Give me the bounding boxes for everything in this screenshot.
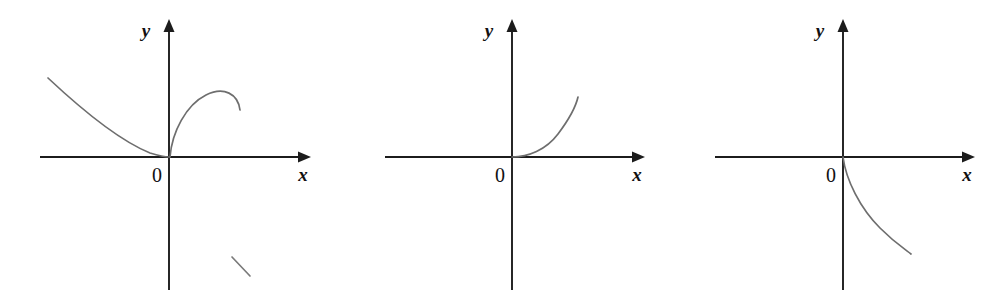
origin-label: 0 — [495, 164, 505, 186]
math-figure-root: y x 0 y x 0 — [0, 0, 1000, 295]
curve-falling-branch — [843, 157, 911, 254]
x-axis-label: x — [961, 164, 972, 185]
axes-panel-right: y x 0 — [670, 0, 1000, 295]
y-axis-arrowhead-icon — [507, 19, 518, 32]
axes-diagram-left: y x 0 — [0, 0, 340, 295]
x-axis-arrowhead-icon — [298, 152, 311, 163]
x-axis-arrowhead-icon — [962, 152, 975, 163]
origin-label: 0 — [826, 164, 836, 186]
x-axis-label: x — [631, 164, 642, 185]
curve-left-descending-branch — [48, 78, 169, 157]
y-axis-arrowhead-icon — [838, 19, 849, 32]
axes-diagram-middle: y x 0 — [340, 0, 670, 295]
axes-panel-left: y x 0 — [0, 0, 340, 295]
y-axis-arrowhead-icon — [164, 19, 175, 32]
curve-rising-branch — [512, 97, 578, 157]
axes-diagram-right: y x 0 — [670, 0, 1000, 295]
y-axis-label: y — [483, 20, 494, 41]
origin-label: 0 — [152, 164, 162, 186]
stray-pen-stroke — [232, 257, 250, 276]
x-axis-arrowhead-icon — [632, 152, 645, 163]
axes-panel-middle: y x 0 — [340, 0, 670, 295]
y-axis-label: y — [814, 20, 825, 41]
y-axis-label: y — [140, 20, 151, 41]
curve-right-arch-branch — [170, 91, 240, 157]
x-axis-label: x — [297, 164, 308, 185]
